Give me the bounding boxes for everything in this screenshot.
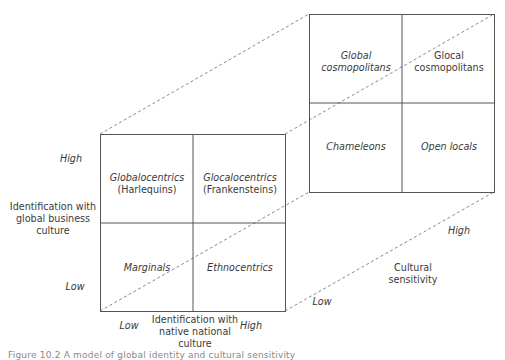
x-axis-high: High xyxy=(236,320,266,332)
cell-sublabel: (Frankensteins) xyxy=(194,184,286,196)
cell-frankensteins: (Frankensteins) xyxy=(194,184,286,196)
cell-marginals: Marginals xyxy=(102,262,192,274)
front-matrix-grid xyxy=(101,135,286,312)
z-axis-low: Low xyxy=(307,296,337,308)
axis-title-line: sensitivity xyxy=(378,274,448,286)
axis-title-line: culture xyxy=(8,225,98,237)
x-axis-title: Identification with native national cult… xyxy=(145,314,245,350)
cell-glocal-cosmopolitans: Glocal cosmopolitans xyxy=(403,50,495,74)
cell-sublabel: (Harlequins) xyxy=(102,184,192,196)
y-axis-high: High xyxy=(56,153,86,165)
z-axis-high: High xyxy=(444,225,474,237)
axis-title-line: Identification with xyxy=(8,201,98,213)
cell-open-locals: Open locals xyxy=(403,141,495,153)
back-matrix-grid xyxy=(310,15,495,193)
x-axis-low: Low xyxy=(114,320,144,332)
cell-label: Glocalocentrics xyxy=(194,172,286,184)
cell-glocalocentrics: Glocalocentrics xyxy=(194,172,286,184)
axis-title-line: culture xyxy=(145,338,245,350)
cell-label: cosmopolitans xyxy=(311,62,401,74)
figure-caption: Figure 10.2 A model of global identity a… xyxy=(8,350,295,360)
axis-title-line: native national xyxy=(145,326,245,338)
axis-title-line: Identification with xyxy=(145,314,245,326)
cell-global-cosmopolitans: Global cosmopolitans xyxy=(311,50,401,74)
cell-harlequins: (Harlequins) xyxy=(102,184,192,196)
y-axis-low: Low xyxy=(60,281,90,293)
y-axis-title: Identification with global business cult… xyxy=(8,201,98,237)
axis-title-line: Cultural xyxy=(378,262,448,274)
axis-title-line: global business xyxy=(8,213,98,225)
cell-chameleons: Chameleons xyxy=(311,141,401,153)
cell-label: cosmopolitans xyxy=(403,62,495,74)
cell-label: Glocal xyxy=(403,50,495,62)
cell-label: Globalocentrics xyxy=(102,172,192,184)
cell-ethnocentrics: Ethnocentrics xyxy=(194,262,286,274)
z-axis-title: Cultural sensitivity xyxy=(378,262,448,286)
cell-globalocentrics: Globalocentrics xyxy=(102,172,192,184)
cell-label: Global xyxy=(311,50,401,62)
